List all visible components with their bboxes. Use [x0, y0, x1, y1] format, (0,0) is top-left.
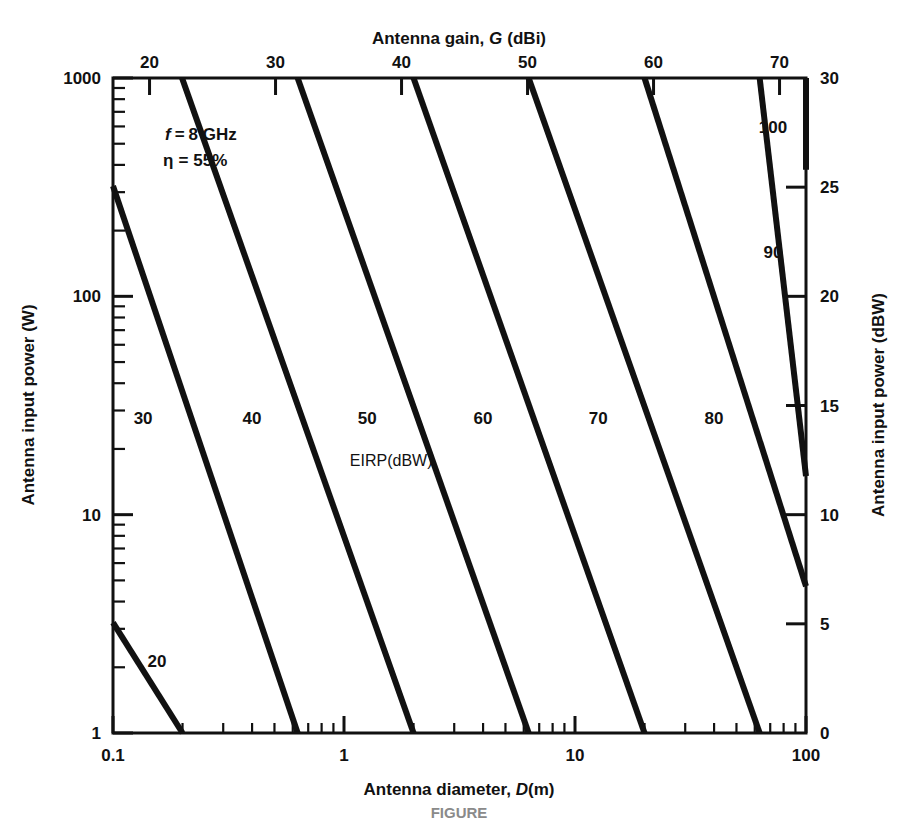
right-tick-label: 10 — [820, 506, 839, 525]
contour-label: 100 — [759, 118, 787, 137]
annotation-frequency-value: 8 GHz — [189, 125, 237, 144]
right-tick-label: 25 — [820, 178, 839, 197]
contour-label: 40 — [243, 409, 262, 428]
right-tick-label: 30 — [820, 69, 839, 88]
figure-container: Antenna gain, G(dBi) Antenna diameter, D… — [0, 0, 915, 822]
bottom-axis-title-units: (m) — [528, 780, 554, 799]
x-tick-label: 0.1 — [101, 746, 125, 765]
right-axis-title: Antenna input power (dBW) — [869, 293, 888, 517]
top-tick-label: 20 — [140, 53, 159, 72]
x-tick-label: 1 — [339, 746, 348, 765]
x-tick-label: 10 — [566, 746, 585, 765]
top-tick-label: 50 — [518, 53, 537, 72]
y-tick-label: 10 — [82, 506, 101, 525]
y-tick-label: 1 — [92, 724, 101, 743]
contour-label: 50 — [358, 409, 377, 428]
figure-caption: FIGURE — [431, 804, 488, 821]
top-axis-title-prefix: Antenna gain, — [372, 29, 489, 48]
right-tick-label: 5 — [820, 615, 829, 634]
contour-label: 90 — [764, 243, 783, 262]
top-tick-label: 30 — [266, 53, 285, 72]
top-axis-title-units: (dBi) — [507, 29, 546, 48]
y-tick-label: 100 — [73, 287, 101, 306]
bottom-axis-title-symbol: D — [516, 780, 528, 799]
contour-label: 70 — [589, 409, 608, 428]
right-tick-label: 15 — [820, 397, 839, 416]
top-tick-label: 70 — [770, 53, 789, 72]
bottom-axis-title-prefix: Antenna diameter, — [364, 780, 516, 799]
y-tick-label: 1000 — [63, 69, 101, 88]
annotation-efficiency-value: 55% — [193, 151, 227, 170]
contour-label: 30 — [134, 409, 153, 428]
contour-label: 60 — [474, 409, 493, 428]
bottom-axis-title: Antenna diameter, D(m) — [364, 780, 555, 799]
eirp-legend-label: EIRP(dBW) — [350, 452, 433, 469]
right-tick-label: 0 — [820, 724, 829, 743]
top-axis-title-symbol: G — [489, 29, 502, 48]
annotation-efficiency: η=55% — [163, 151, 227, 170]
contour-label: 20 — [148, 652, 167, 671]
top-axis-title: Antenna gain, G(dBi) — [372, 29, 546, 48]
right-tick-label: 20 — [820, 287, 839, 306]
annotation-frequency: f=8 GHz — [165, 125, 237, 144]
annotation-efficiency-symbol: η — [163, 151, 173, 170]
top-tick-label: 40 — [392, 53, 411, 72]
nomogram-chart: Antenna gain, G(dBi) Antenna diameter, D… — [0, 0, 915, 822]
top-tick-label: 60 — [644, 53, 663, 72]
x-tick-label: 100 — [792, 746, 820, 765]
left-axis-title: Antenna input power (W) — [19, 304, 38, 505]
contour-label: 80 — [705, 409, 724, 428]
